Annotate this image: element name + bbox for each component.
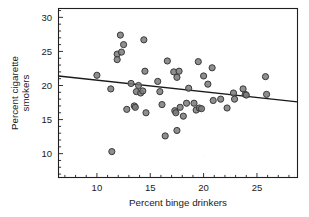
data-point [210, 97, 216, 103]
data-point [173, 110, 179, 116]
data-point [108, 86, 114, 92]
data-point [124, 106, 130, 112]
data-point [141, 37, 147, 43]
data-point [157, 89, 163, 95]
x-axis-tick-label: 15 [145, 182, 156, 193]
scatter-plot-figure: 101520251015202530Percent binge drinkers… [0, 0, 309, 217]
data-point [132, 104, 138, 110]
data-point [231, 96, 237, 102]
data-point [209, 65, 215, 71]
y-axis-tick-label: 30 [41, 12, 52, 23]
data-point [143, 110, 149, 116]
data-point [109, 149, 115, 155]
y-axis-tick-label: 10 [41, 148, 52, 159]
data-point [142, 68, 148, 74]
data-point [191, 100, 197, 106]
y-axis-tick-label: 15 [41, 114, 52, 125]
data-point [224, 105, 230, 111]
y-axis-tick-label: 20 [41, 80, 52, 91]
data-point [230, 90, 236, 96]
data-point [180, 113, 186, 119]
data-point [174, 127, 180, 133]
data-point [162, 133, 168, 139]
data-point [117, 32, 123, 38]
y-axis-title-line-1: Percent cigarette [9, 55, 20, 130]
data-point [135, 82, 141, 88]
data-point [118, 49, 124, 55]
data-point [198, 106, 204, 112]
data-point [218, 96, 224, 102]
data-point [114, 57, 120, 63]
x-axis-tick-label: 10 [92, 182, 103, 193]
data-point [120, 42, 126, 48]
y-axis-tick-label: 25 [41, 46, 52, 57]
data-point [128, 80, 134, 86]
data-point [177, 104, 183, 110]
x-axis-tick-label: 20 [198, 182, 209, 193]
data-point [195, 59, 201, 65]
data-point [205, 81, 211, 87]
data-point [262, 74, 268, 80]
data-point [263, 91, 269, 97]
data-point [164, 58, 170, 64]
data-point [186, 85, 192, 91]
x-axis-title: Percent binge drinkers [129, 197, 227, 208]
data-point [174, 74, 180, 80]
data-point [176, 68, 182, 74]
data-point [94, 72, 100, 78]
data-point [155, 78, 161, 84]
data-point [159, 101, 165, 107]
y-axis-title-line-2: smokers [20, 74, 31, 111]
data-point [243, 92, 249, 98]
data-point [140, 88, 146, 94]
data-point [201, 73, 207, 79]
data-point [183, 100, 189, 106]
x-axis-tick-label: 25 [252, 182, 263, 193]
